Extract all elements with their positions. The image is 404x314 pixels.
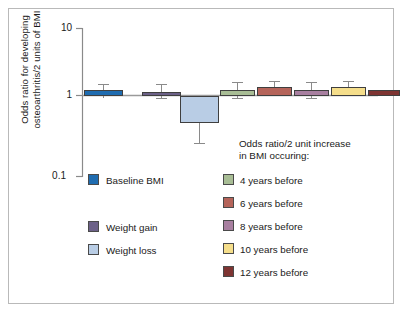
y-tick-1: 1: [46, 89, 72, 100]
bar-weight-loss: [180, 96, 219, 123]
legend-label-weight-loss[interactable]: Weight loss: [106, 245, 156, 256]
bar-baseline-bmi: [84, 90, 123, 96]
legend-right-header-line1: Odds ratio/2 unit increase: [239, 138, 394, 150]
bar-10-years-before: [331, 87, 366, 96]
legend-right-header: Odds ratio/2 unit increase in BMI occuri…: [239, 138, 394, 161]
legend-swatch-baseline-bmi[interactable]: [88, 174, 99, 185]
legend-swatch-weight-gain[interactable]: [88, 221, 99, 232]
legend-swatch-weight-loss[interactable]: [88, 244, 99, 255]
legend-label-8-years-before[interactable]: 8 years before: [240, 221, 303, 232]
error-cap-6-years-before-top: [269, 81, 280, 82]
error-cap-weight-gain-top: [156, 84, 167, 85]
y-tick-0point1: 0.1: [40, 170, 66, 181]
error-cap-10-years-before-top: [343, 81, 354, 82]
legend-swatch-12-years-before[interactable]: [223, 266, 234, 277]
legend-swatch-8-years-before[interactable]: [223, 220, 234, 231]
legend-swatch-10-years-before[interactable]: [223, 243, 234, 254]
legend-label-baseline-bmi[interactable]: Baseline BMI: [106, 175, 164, 186]
y-tick-10: 10: [46, 22, 72, 33]
legend-label-4-years-before[interactable]: 4 years before: [240, 175, 303, 186]
error-cap-weight-gain-bottom: [156, 98, 167, 99]
bar-weight-gain: [142, 92, 181, 96]
error-cap-weight-loss-bottom: [194, 143, 205, 144]
bar-4-years-before: [220, 90, 255, 96]
legend-swatch-6-years-before[interactable]: [223, 197, 234, 208]
bar-6-years-before: [257, 87, 292, 96]
legend-label-10-years-before[interactable]: 10 years before: [240, 244, 308, 255]
bar-8-years-before: [294, 90, 329, 96]
legend-label-6-years-before[interactable]: 6 years before: [240, 198, 303, 209]
error-cap-8-years-before-top: [306, 82, 317, 83]
legend-label-12-years-before[interactable]: 12 years before: [240, 267, 308, 278]
error-cap-baseline-bmi-top: [98, 84, 109, 85]
error-cap-4-years-before-top: [232, 82, 243, 83]
chart-canvas: Odds ratio for developing osteoarthritis…: [0, 0, 404, 314]
error-cap-8-years-before-bottom: [306, 98, 317, 99]
legend-right-header-line2: in BMI occuring:: [239, 150, 394, 162]
legend-swatch-4-years-before[interactable]: [223, 174, 234, 185]
legend-label-weight-gain[interactable]: Weight gain: [106, 222, 158, 233]
bar-12-years-before: [368, 90, 400, 96]
error-cap-4-years-before-bottom: [232, 98, 243, 99]
